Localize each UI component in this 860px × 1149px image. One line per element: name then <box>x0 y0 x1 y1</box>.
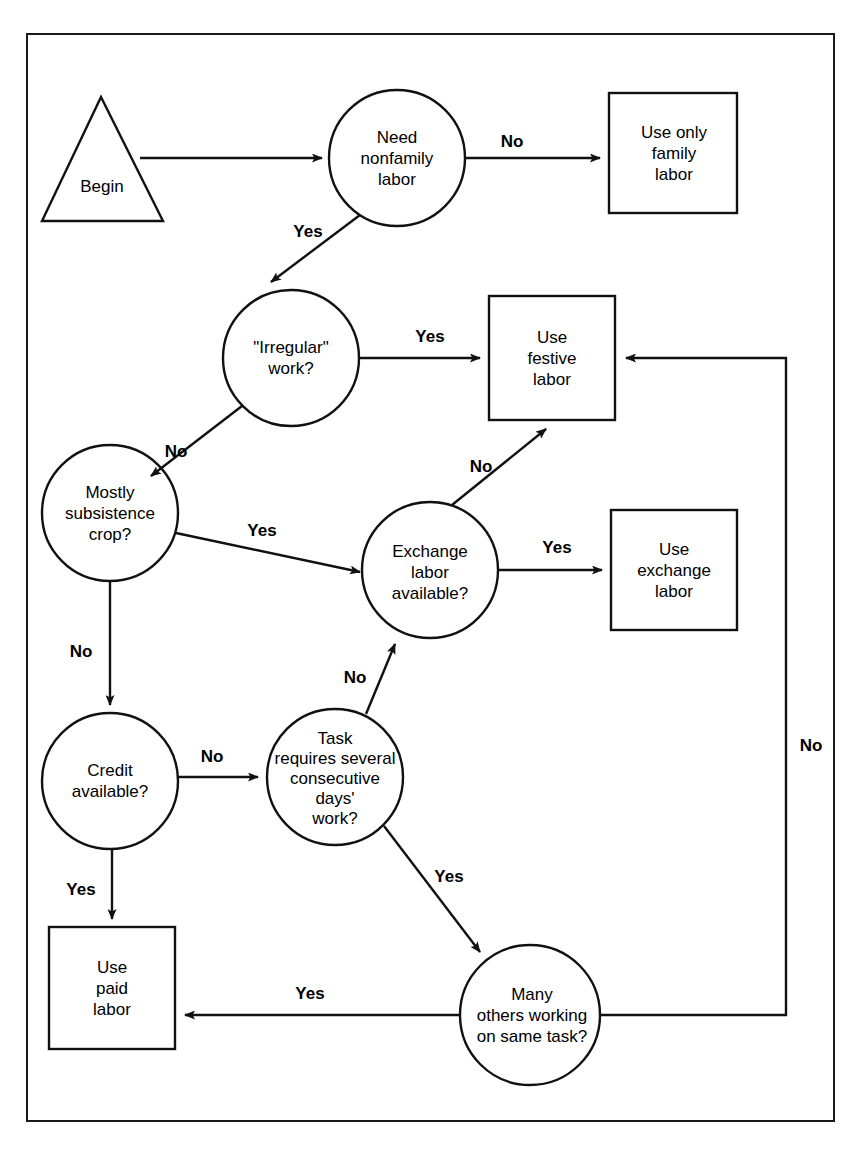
edge-task-consecutive-no-to-exchange-labor <box>366 644 395 714</box>
node-use-exchange-labor <box>611 510 737 630</box>
edge-label-many-others-no: No <box>800 736 823 756</box>
node-use-only-family-labor <box>609 93 737 213</box>
edge-label-irregular-work-yes: Yes <box>415 327 444 347</box>
node-irregular-work <box>223 290 359 426</box>
flowchart-page: Begin Need nonfamily labor Use only fami… <box>0 0 860 1149</box>
flowchart-canvas <box>0 0 860 1149</box>
node-exchange-labor-available <box>362 502 498 638</box>
node-task-requires-consecutive-days <box>267 709 403 845</box>
edge-label-need-nonfamily-no: No <box>501 132 524 152</box>
edge-label-exchange-labor-no: No <box>470 457 493 477</box>
edge-label-need-nonfamily-yes: Yes <box>293 222 322 242</box>
edge-many-others-no-to-use-festive <box>600 358 786 1015</box>
edge-label-exchange-labor-yes: Yes <box>542 538 571 558</box>
edge-label-many-others-yes: Yes <box>295 984 324 1004</box>
edge-label-mostly-subsistence-yes: Yes <box>247 521 276 541</box>
edge-label-task-consecutive-no: No <box>344 668 367 688</box>
edge-label-task-consecutive-yes: Yes <box>434 867 463 887</box>
edge-irregular-work-no-to-mostly-subsistence <box>151 406 242 476</box>
node-use-paid-labor <box>49 927 175 1049</box>
edge-task-consecutive-yes-to-many-others <box>384 826 480 952</box>
edge-exchange-labor-no-to-use-festive <box>452 429 546 505</box>
node-many-others-same-task <box>460 945 600 1085</box>
node-use-festive-labor <box>489 296 615 420</box>
edge-label-mostly-subsistence-no: No <box>70 642 93 662</box>
edge-label-irregular-work-no: No <box>165 442 188 462</box>
edge-label-credit-available-yes: Yes <box>66 880 95 900</box>
node-mostly-subsistence-crop <box>42 445 178 581</box>
edge-label-credit-available-no: No <box>201 747 224 767</box>
node-credit-available <box>42 713 178 849</box>
node-need-nonfamily-labor <box>329 90 465 226</box>
